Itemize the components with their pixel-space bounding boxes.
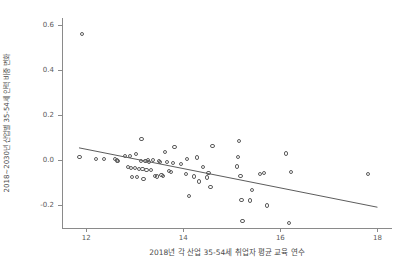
scatter-point [287, 221, 291, 225]
scatter-point [265, 203, 269, 207]
y-tick-label: -0.2 [40, 201, 54, 209]
x-axis-title: 2018년 각 산업 35-54세 취업자 평균 교육 연수 [62, 246, 392, 257]
scatter-point [144, 168, 148, 172]
scatter-point [195, 155, 199, 159]
scatter-point [161, 174, 165, 178]
scatter-point [135, 175, 139, 179]
scatter-point [123, 154, 127, 158]
scatter-point [163, 150, 167, 154]
scatter-point [165, 160, 169, 164]
scatter-point [134, 152, 138, 156]
scatter-point [235, 164, 239, 168]
scatter-point [169, 170, 173, 174]
scatter-point [201, 165, 205, 169]
scatter-point [366, 172, 370, 176]
x-tick-label: 12 [82, 234, 91, 242]
y-tick-mark [58, 205, 62, 206]
scatter-point [94, 157, 98, 161]
scatter-point [185, 157, 189, 161]
scatter-point [238, 174, 242, 178]
scatter-point [171, 161, 175, 165]
scatter-point [102, 157, 106, 161]
x-tick-mark [280, 228, 281, 232]
y-axis-line [62, 18, 63, 228]
plot-area [62, 18, 392, 228]
scatter-point [151, 158, 155, 162]
scatter-point [206, 171, 210, 175]
x-tick-label: 16 [276, 234, 285, 242]
scatter-point [289, 170, 293, 174]
scatter-point [210, 144, 214, 148]
scatter-point [116, 159, 120, 163]
y-tick-label: 0.6 [43, 21, 54, 29]
scatter-point [139, 159, 143, 163]
scatter-point [262, 171, 266, 175]
y-tick-mark [58, 25, 62, 26]
scatter-point [236, 155, 240, 159]
scatter-point [149, 168, 153, 172]
scatter-point [139, 137, 143, 141]
scatter-point [192, 174, 196, 178]
y-tick-label: 0.4 [43, 66, 54, 74]
scatter-point [141, 177, 145, 181]
scatter-point [237, 139, 241, 143]
scatter-point [187, 194, 191, 198]
x-tick-mark [377, 228, 378, 232]
scatter-point [284, 151, 288, 155]
x-tick-label: 14 [179, 234, 188, 242]
scatter-point [239, 198, 243, 202]
scatter-point [184, 172, 188, 176]
scatter-point [158, 160, 162, 164]
y-tick-mark [58, 115, 62, 116]
y-tick-label: 0.2 [43, 111, 54, 119]
scatter-point [77, 155, 81, 159]
x-tick-mark [86, 228, 87, 232]
y-axis-title: 2018~2030년 산업별 35-54세 인력 비중 변화 [0, 18, 14, 228]
x-tick-mark [183, 228, 184, 232]
scatter-point [250, 188, 254, 192]
x-axis-line [62, 228, 392, 229]
scatter-point [155, 174, 159, 178]
scatter-point [80, 32, 84, 36]
scatter-point [128, 154, 132, 158]
scatter-point [179, 162, 183, 166]
scatter-point [172, 145, 176, 149]
scatter-point [240, 219, 244, 223]
x-tick-label: 18 [373, 234, 382, 242]
scatter-point [248, 198, 252, 202]
y-tick-mark [58, 160, 62, 161]
y-tick-mark [58, 70, 62, 71]
scatter-point [130, 175, 134, 179]
scatter-plot-figure: 12141618 0.60.40.20.0-0.2 2018년 각 산업 35-… [0, 0, 408, 267]
scatter-point [197, 179, 201, 183]
scatter-point [208, 185, 212, 189]
y-tick-label: 0.0 [43, 156, 54, 164]
scatter-point [205, 175, 209, 179]
